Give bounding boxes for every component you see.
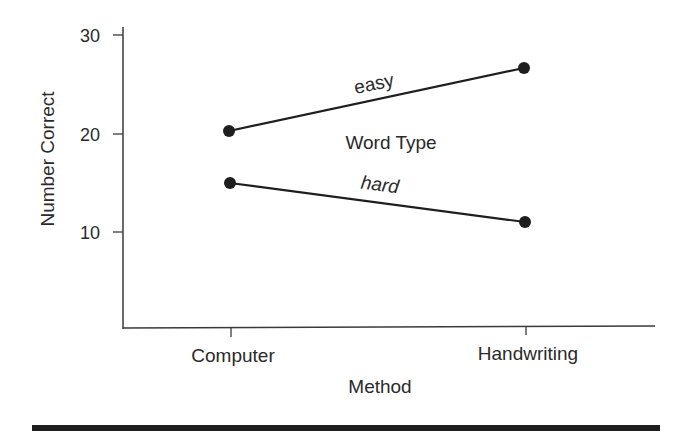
x-axis <box>123 326 655 328</box>
plot-svg: 30 20 10 Computer Handwriting Method Num… <box>0 0 687 432</box>
x-axis-title: Method <box>348 376 411 397</box>
legend-title: Word Type <box>345 132 436 153</box>
series-easy-label: easy <box>352 69 396 98</box>
y-tick-label-30: 30 <box>80 26 100 46</box>
series-hard: hard <box>224 172 531 228</box>
series-easy-point-computer <box>223 125 235 137</box>
series-hard-point-computer <box>224 177 236 189</box>
series-easy: easy <box>223 62 530 137</box>
series-easy-point-handwriting <box>518 62 530 74</box>
y-tick-label-10: 10 <box>80 223 100 243</box>
series-hard-point-handwriting <box>519 216 531 228</box>
series-hard-label: hard <box>360 172 402 198</box>
y-tick-label-20: 20 <box>80 125 100 145</box>
bottom-rule-divider <box>32 425 660 431</box>
y-ticks <box>113 35 123 232</box>
x-tick-label-computer: Computer <box>191 345 275 366</box>
x-tick-labels: Computer Handwriting <box>191 343 578 366</box>
x-tick-label-handwriting: Handwriting <box>478 343 578 364</box>
y-tick-labels: 30 20 10 <box>80 26 100 243</box>
interaction-plot: 30 20 10 Computer Handwriting Method Num… <box>0 0 687 432</box>
y-axis-title: Number Correct <box>37 91 58 227</box>
